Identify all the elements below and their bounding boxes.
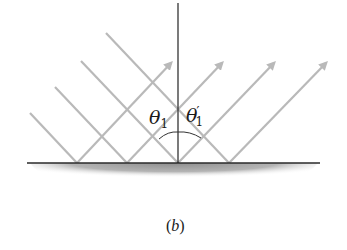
reflected-angle-label: θ′1 [186,104,203,129]
incident-angle-label: θ1 [149,106,168,131]
reflection-diagram: θ1 θ′1 (b) [0,0,347,250]
incident-ray [81,61,178,163]
figure-caption: (b) [166,217,185,235]
reflected-angle-arc [178,132,201,138]
reflected-ray-arrow [229,63,326,163]
incident-ray [30,113,77,163]
reflected-ray-arrow [127,63,222,163]
surface-shading [30,163,318,187]
incident-angle-arc [159,132,178,139]
reflected-rays [77,63,326,163]
incident-rays [30,33,229,163]
incident-ray [106,33,229,163]
